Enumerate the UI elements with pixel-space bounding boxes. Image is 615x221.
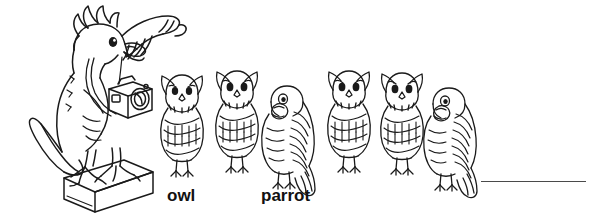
- mascot-head: [74, 24, 128, 55]
- camera-strap: [86, 58, 116, 116]
- bird-owl-2: [216, 71, 258, 173]
- breast-feathers: [66, 76, 101, 140]
- camera-icon: [109, 76, 152, 118]
- bird-owl-4: [381, 73, 423, 175]
- raised-wing: [122, 16, 186, 60]
- bird-owl-1: [161, 75, 203, 177]
- eye-icon: [109, 37, 117, 47]
- bird-parrot-1: [262, 86, 315, 196]
- label-owl: owl: [167, 186, 195, 206]
- label-parrot: parrot: [261, 186, 310, 206]
- bird-parrot-2: [424, 88, 477, 198]
- mascot-cockatoo-photographer: [29, 6, 186, 212]
- mascot-body: [57, 73, 74, 152]
- bird-owl-3: [328, 71, 370, 173]
- answer-blank-line[interactable]: [481, 181, 586, 182]
- pedestal-box: [64, 160, 153, 212]
